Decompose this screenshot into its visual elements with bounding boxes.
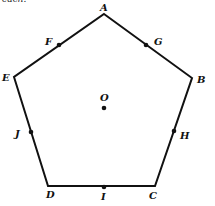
point-I bbox=[102, 185, 107, 190]
label-E: E bbox=[1, 72, 10, 83]
points bbox=[29, 43, 177, 190]
point-H bbox=[172, 129, 177, 134]
label-D: D bbox=[45, 189, 55, 200]
point-F bbox=[57, 43, 62, 48]
label-O: O bbox=[100, 92, 109, 103]
point-J bbox=[29, 130, 34, 135]
label-F: F bbox=[44, 36, 53, 47]
label-I: I bbox=[100, 191, 106, 202]
label-H: H bbox=[179, 130, 190, 141]
point-O bbox=[102, 106, 107, 111]
label-A: A bbox=[99, 2, 108, 13]
label-J: J bbox=[13, 128, 21, 139]
labels: A B C D E F G H I J O bbox=[1, 2, 205, 202]
point-G bbox=[144, 43, 149, 48]
label-C: C bbox=[149, 190, 157, 201]
pentagon-diagram: A B C D E F G H I J O bbox=[0, 0, 215, 206]
label-B: B bbox=[196, 74, 205, 85]
label-G: G bbox=[154, 36, 163, 47]
